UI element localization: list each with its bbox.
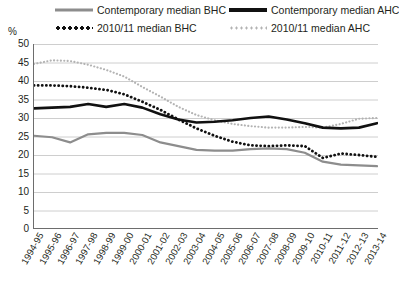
y-axis-tick-label: 0 <box>23 224 29 234</box>
plot-area <box>33 44 378 229</box>
legend-label-contemporary-ahc: Contemporary median AHC <box>271 4 399 16</box>
legend-label-2010-bhc: 2010/11 median BHC <box>97 22 197 34</box>
y-axis-tick-label: 25 <box>18 132 29 142</box>
data-series-layer <box>34 60 377 166</box>
y-axis-unit-label: % <box>8 26 17 37</box>
y-axis-tick-label: 45 <box>18 58 29 68</box>
legend-item-2010-ahc: 2010/11 median AHC <box>229 21 370 35</box>
legend-swatch-dotted-grey-icon <box>229 23 267 33</box>
legend-item-contemporary-ahc: Contemporary median AHC <box>229 3 399 17</box>
y-axis-tick-label: 35 <box>18 95 29 105</box>
legend-item-contemporary-bhc: Contemporary median BHC <box>55 3 226 17</box>
y-axis-tick-label: 50 <box>18 39 29 49</box>
y-axis-tick-label: 30 <box>18 113 29 123</box>
x-axis-tick-labels: 1994-951995-961996-971997-981998-991999-… <box>33 231 378 283</box>
series-line <box>34 133 377 166</box>
series-line <box>34 60 377 127</box>
chart-legend: Contemporary median BHC Contemporary med… <box>33 2 381 38</box>
legend-swatch-dotted-black-icon <box>55 23 93 33</box>
legend-label-2010-ahc: 2010/11 median AHC <box>271 22 370 34</box>
y-axis-tick-labels: 50454035302520151050 <box>0 44 29 229</box>
chart-svg <box>33 44 378 229</box>
series-line <box>34 104 377 128</box>
y-axis-tick-label: 40 <box>18 76 29 86</box>
legend-swatch-solid-grey-icon <box>55 5 93 15</box>
legend-item-2010-bhc: 2010/11 median BHC <box>55 21 197 35</box>
y-axis-tick-label: 5 <box>23 206 29 216</box>
y-axis-tick-label: 10 <box>18 187 29 197</box>
y-axis-tick-label: 20 <box>18 150 29 160</box>
legend-label-contemporary-bhc: Contemporary median BHC <box>97 4 226 16</box>
legend-swatch-solid-black-icon <box>229 5 267 15</box>
y-axis-tick-label: 15 <box>18 169 29 179</box>
